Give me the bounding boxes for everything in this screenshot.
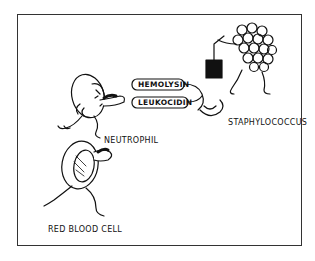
red-blood-cell-label: RED BLOOD CELL: [48, 225, 122, 234]
neutrophil-label: NEUTROPHIL: [104, 136, 158, 145]
staphylococcus-figure: [218, 23, 277, 94]
red-blood-cell-figure: [44, 138, 112, 216]
leukocidin-label: LEUKOCIDIN: [138, 98, 192, 107]
hemolysin-label: HEMOLYSIN: [138, 80, 189, 89]
illustration-artwork: [0, 0, 315, 261]
staphylococcus-label: STAPHYLOCOCCUS: [228, 118, 307, 127]
neutrophil-figure: [58, 71, 125, 138]
